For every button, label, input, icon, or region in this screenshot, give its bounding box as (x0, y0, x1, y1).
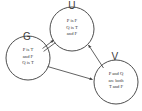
logic-worlds-diagram: U G V P is F Q is T and F P is T and F Q… (0, 0, 142, 111)
node-text-u-line3: and F (48, 31, 96, 38)
node-text-g: P is T and F Q is T (4, 47, 52, 67)
node-label-v: V (103, 52, 127, 62)
node-text-u: P is F Q is T and F (48, 18, 96, 38)
edge-g-to-v (48, 67, 93, 80)
node-label-g: G (16, 32, 38, 42)
node-text-v: P and Q are both T and F (92, 71, 140, 91)
node-text-v-line3: T and F (92, 84, 140, 91)
node-text-g-line3: Q is T (4, 60, 52, 67)
edge-v-to-u (89, 45, 104, 68)
node-label-u: U (60, 1, 84, 11)
